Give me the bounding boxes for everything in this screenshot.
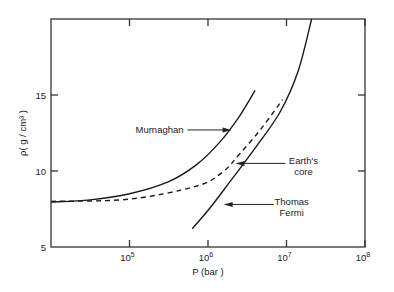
annotation-label: Earth's	[289, 155, 319, 166]
annotation-murnaghan: Murnaghan	[135, 124, 231, 135]
y-axis: 51015	[35, 90, 365, 253]
y-tick-label: 15	[35, 90, 46, 101]
annotation-label: Thomas	[275, 196, 310, 207]
annotation-label: core	[294, 166, 312, 177]
y-axis-label: ρ( g / cm³ )	[17, 110, 28, 156]
x-axis: 105106107108	[120, 19, 370, 263]
density-pressure-chart: 105106107108 51015 MurnaghanEarth'scoreT…	[0, 0, 394, 292]
annotation-thomas-fermi: ThomasFermi	[224, 196, 309, 218]
x-tick-label: 105	[120, 251, 135, 263]
annotation-label: Fermi	[280, 207, 304, 218]
arrowhead-icon	[235, 161, 244, 166]
y-axis-label-text: ρ( g / cm³ )	[17, 110, 28, 156]
plot-frame	[51, 19, 365, 247]
x-tick-label: 107	[277, 251, 292, 263]
series-earth-s-core	[51, 100, 283, 202]
x-tick-label: 106	[199, 251, 214, 263]
y-tick-label: 10	[35, 166, 46, 177]
x-axis-label: P (bar )	[192, 266, 224, 277]
arrowhead-icon	[224, 202, 233, 207]
x-tick-label: 108	[356, 251, 371, 263]
y-tick-label: 5	[41, 242, 46, 253]
annotation-label: Murnaghan	[135, 124, 183, 135]
annotations: MurnaghanEarth'scoreThomasFermi	[135, 124, 318, 217]
series-murnaghan	[51, 90, 255, 202]
